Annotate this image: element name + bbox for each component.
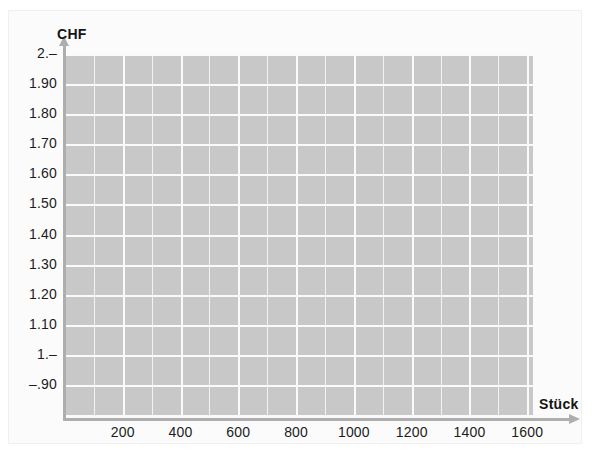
x-axis-line (63, 418, 571, 421)
y-axis-tick-label: 1.30 (3, 256, 57, 272)
x-axis-tick-label: 1000 (324, 424, 384, 440)
x-axis-tick-label: 400 (151, 424, 211, 440)
y-axis-tick-label: 1.60 (3, 165, 57, 181)
x-axis-tick-label: 600 (208, 424, 268, 440)
x-axis-tick-label: 200 (93, 424, 153, 440)
gridline-horizontal (65, 415, 533, 417)
gridline-horizontal (65, 174, 533, 176)
plot-area (65, 54, 533, 415)
gridline-horizontal (65, 144, 533, 146)
gridline-horizontal (65, 265, 533, 267)
y-axis-tick-label: 1.50 (3, 195, 57, 211)
y-axis-tick-label: 1.– (3, 346, 57, 362)
y-axis-tick-label: 2.– (3, 45, 57, 61)
y-axis-tick-label: 1.20 (3, 286, 57, 302)
y-axis-tick-label: 1.10 (3, 316, 57, 332)
gridline-horizontal (65, 325, 533, 327)
x-axis-tick-label: 1200 (382, 424, 442, 440)
y-axis-line (63, 44, 66, 421)
chart-figure: CHF Stück 2.–1.901.801.701.601.501.401.3… (0, 0, 592, 455)
gridline-horizontal (65, 114, 533, 116)
y-axis-tick-label: 1.70 (3, 135, 57, 151)
x-axis-arrow-icon (569, 414, 580, 424)
y-axis-tick-label: –.90 (3, 376, 57, 392)
y-axis-tick-label: 1.80 (3, 105, 57, 121)
y-axis-title: CHF (57, 26, 87, 42)
gridline-horizontal (65, 355, 533, 357)
gridline-horizontal (65, 204, 533, 206)
x-axis-title: Stück (539, 396, 579, 412)
y-axis-tick-label: 1.40 (3, 226, 57, 242)
x-axis-tick-label: 1400 (439, 424, 499, 440)
y-axis-tick-labels: 2.–1.901.801.701.601.501.401.301.201.101… (0, 0, 57, 455)
y-axis-tick-label: 1.90 (3, 75, 57, 91)
gridline-horizontal (65, 54, 533, 56)
gridline-horizontal (65, 295, 533, 297)
gridline-horizontal (65, 385, 533, 387)
gridline-horizontal (65, 84, 533, 86)
gridline-horizontal (65, 235, 533, 237)
x-axis-tick-label: 1600 (497, 424, 557, 440)
x-axis-tick-label: 800 (266, 424, 326, 440)
